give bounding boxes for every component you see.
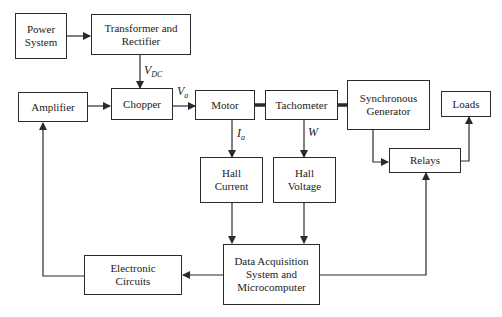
w-signal-label: W: [308, 125, 318, 140]
synchronous-generator-block: Synchronous Generator: [347, 80, 430, 130]
hall-voltage-block: Hall Voltage: [273, 157, 336, 203]
relays-block: Relays: [389, 148, 461, 173]
power-system-block: Power System: [15, 13, 67, 59]
transformer-rectifier-label: Transformer and Rectifier: [104, 22, 177, 48]
va-signal-label: Va: [177, 84, 188, 100]
ia-signal-label: Ia: [237, 126, 245, 142]
data-acquisition-label: Data Acquisition System and Microcompute…: [234, 255, 308, 294]
hall-current-label: Hall Current: [215, 167, 249, 193]
electronic-circuits-label: Electronic Circuits: [110, 262, 155, 288]
hall-current-block: Hall Current: [200, 157, 263, 203]
chopper-label: Chopper: [123, 98, 161, 111]
hall-voltage-label: Hall Voltage: [288, 167, 321, 193]
loads-label: Loads: [453, 98, 480, 111]
data-acquisition-block: Data Acquisition System and Microcompute…: [223, 244, 320, 305]
amplifier-label: Amplifier: [31, 101, 74, 114]
amplifier-block: Amplifier: [18, 92, 88, 122]
electronic-circuits-block: Electronic Circuits: [84, 255, 182, 295]
relays-label: Relays: [410, 154, 440, 167]
va-subscript: a: [184, 91, 188, 100]
power-system-label: Power System: [25, 23, 57, 49]
motor-label: Motor: [211, 99, 239, 112]
chopper-block: Chopper: [111, 88, 173, 120]
vdc-subscript: DC: [151, 70, 162, 79]
motor-block: Motor: [195, 90, 255, 120]
tachometer-label: Tachometer: [276, 99, 328, 112]
w-symbol: W: [308, 125, 318, 139]
transformer-rectifier-block: Transformer and Rectifier: [91, 14, 191, 55]
ia-subscript: a: [241, 133, 245, 142]
vdc-signal-label: VDC: [144, 63, 162, 79]
loads-block: Loads: [441, 91, 491, 117]
tachometer-block: Tachometer: [265, 90, 338, 120]
synchronous-generator-label: Synchronous Generator: [360, 92, 417, 118]
